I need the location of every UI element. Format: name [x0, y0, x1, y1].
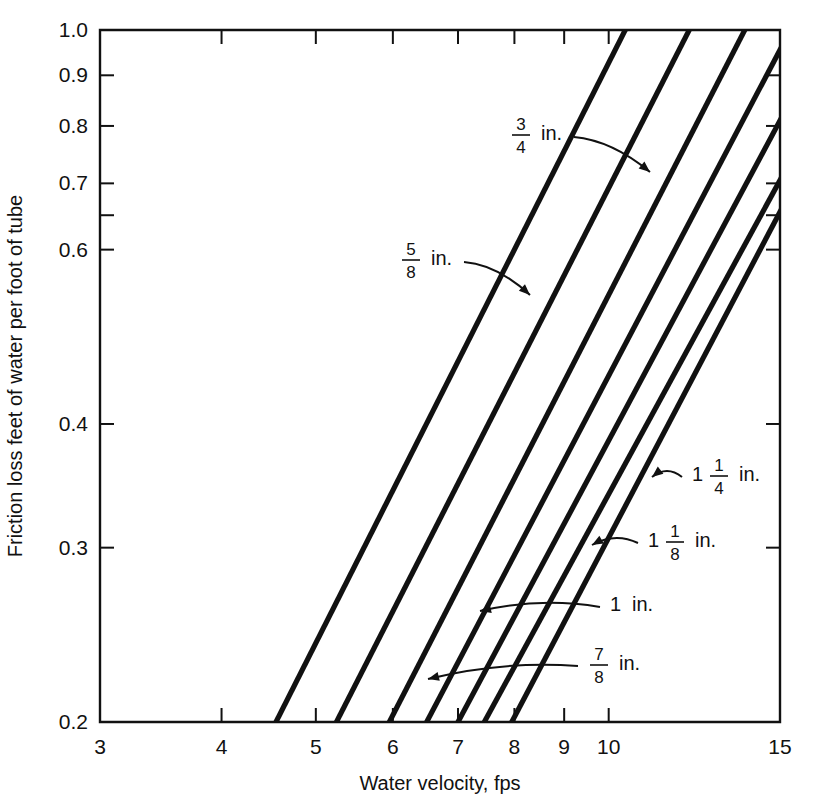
y-tick-label-6: 0.4	[59, 412, 89, 435]
y-tick-label-5: 0.6	[59, 238, 88, 261]
x-tick-label-7: 10	[597, 735, 620, 758]
series-line-3	[420, 36, 787, 735]
y-tick-label-8: 0.2	[59, 710, 88, 733]
annotation-unit: in.	[632, 593, 653, 615]
annotation-1-in-: 1in.	[480, 593, 653, 615]
leader-arrowhead	[639, 162, 650, 172]
x-tick-label-8: 15	[768, 735, 791, 758]
annotation-unit: in.	[695, 529, 716, 551]
leader-line	[480, 603, 600, 611]
annotation-denominator: 4	[714, 479, 723, 498]
x-tick-label-0: 3	[94, 735, 106, 758]
annotation-unit: in.	[541, 122, 562, 144]
annotation-unit: in.	[619, 652, 640, 674]
y-axis-title: Friction loss feet of water per foot of …	[4, 195, 26, 557]
series-annotations: 34in.58in.114in.118in.1in.78in.	[402, 115, 760, 687]
y-tick-label-2: 0.8	[59, 114, 88, 137]
annotation-whole: 1	[692, 463, 703, 485]
x-tick-label-5: 8	[509, 735, 521, 758]
x-tick-label-1: 4	[216, 735, 228, 758]
friction-loss-chart: 1.00.90.80.70.60.40.30.2 34567891015 34i…	[0, 0, 821, 806]
y-tick-label-1: 0.9	[59, 63, 88, 86]
annotation-5-8-in-: 58in.	[402, 240, 530, 295]
annotation-whole: 1	[648, 529, 659, 551]
x-tick-label-6: 9	[558, 735, 570, 758]
x-axis-tick-labels: 34567891015	[94, 735, 792, 758]
annotation-unit: in.	[431, 247, 452, 269]
annotation-denominator: 8	[594, 668, 603, 687]
annotation-unit: in.	[739, 463, 760, 485]
annotation-denominator: 4	[516, 138, 525, 157]
y-tick-label-0: 1.0	[59, 18, 88, 41]
annotation-1-1-4-in-: 114in.	[652, 456, 760, 498]
x-tick-label-3: 6	[387, 735, 399, 758]
series-line-4	[452, 109, 787, 734]
annotation-1-1-8-in-: 118in.	[592, 522, 716, 564]
x-tick-label-2: 5	[310, 735, 322, 758]
annotation-whole: 1	[610, 593, 621, 615]
leader-line	[574, 137, 650, 172]
leader-arrowhead	[652, 467, 663, 477]
chart-svg: 1.00.90.80.70.60.40.30.2 34567891015 34i…	[0, 0, 821, 806]
y-tick-label-7: 0.3	[59, 536, 88, 559]
annotation-numerator: 1	[714, 456, 723, 475]
annotation-numerator: 7	[594, 645, 603, 664]
annotation-numerator: 5	[406, 240, 415, 259]
annotation-numerator: 1	[670, 522, 679, 541]
series-line-0	[269, 16, 632, 736]
x-tick-label-4: 7	[452, 735, 464, 758]
x-axis-title: Water velocity, fps	[359, 772, 520, 794]
y-axis-tick-labels: 1.00.90.80.70.60.40.30.2	[59, 18, 89, 733]
annotation-denominator: 8	[406, 263, 415, 282]
data-series-group	[269, 16, 787, 736]
y-tick-label-3: 0.7	[59, 171, 88, 194]
annotation-numerator: 3	[516, 115, 525, 134]
annotation-denominator: 8	[670, 545, 679, 564]
